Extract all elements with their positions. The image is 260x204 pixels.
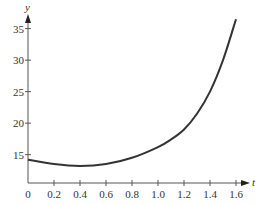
x-tick-label: 1.6 (229, 188, 243, 200)
x-axis-arrow-icon (241, 180, 250, 186)
y-tick-label: 25 (13, 86, 25, 98)
x-tick-label: 0 (25, 188, 31, 200)
x-tick-label: 0.6 (99, 188, 113, 200)
y-axis-arrow-icon (25, 14, 31, 23)
line-chart: t y 00.20.40.60.81.01.21.41.6 1520253035 (0, 0, 260, 204)
axes: t y (24, 1, 256, 188)
x-tick-label: 1.4 (203, 188, 217, 200)
x-tick-label: 0.2 (47, 188, 61, 200)
x-axis-label: t (252, 176, 256, 188)
x-tick-label: 1.0 (151, 188, 165, 200)
y-axis-label: y (24, 1, 30, 13)
y-tick-label: 15 (13, 149, 25, 161)
y-tick-label: 20 (13, 117, 25, 129)
series-group (28, 19, 236, 166)
x-tick-label: 0.4 (73, 188, 87, 200)
x-tick-label: 0.8 (125, 188, 139, 200)
y-tick-label: 30 (13, 54, 25, 66)
y-tick-label: 35 (13, 23, 25, 35)
series-line (28, 19, 236, 166)
x-tick-label: 1.2 (177, 188, 191, 200)
